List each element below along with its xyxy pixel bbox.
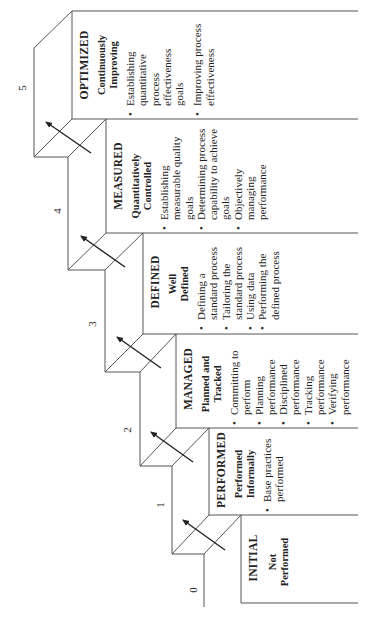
practice-item: Committing to perform — [228, 337, 253, 425]
level-box-measured: MEASURED Quantitatively Controlled Estab… — [112, 122, 269, 230]
practice-item: Establishing quantitative process effect… — [124, 34, 185, 116]
level-subtitle: Not Performed — [267, 534, 291, 590]
level-number-4: 4 — [51, 206, 63, 216]
practice-list: Defining a standard process Tailoring th… — [195, 234, 281, 330]
arrow-icon — [183, 520, 225, 550]
level-subtitle: Continuously Improving — [96, 30, 120, 100]
level-name: MANAGED — [182, 333, 194, 425]
practice-item: Verifying performance — [326, 337, 351, 425]
practice-list: Establishing quantitative process effect… — [124, 14, 216, 116]
level-subtitle: Quantitatively Controlled — [130, 146, 154, 226]
level-number-5: 5 — [16, 83, 28, 93]
level-number-3: 3 — [86, 319, 98, 329]
level-box-optimized: OPTIMIZED Continuously Improving Establi… — [78, 14, 216, 116]
practice-list: Base practices performed — [261, 428, 286, 512]
practice-item: Tracking performance — [302, 337, 327, 425]
level-box-initial: INITIAL Not Performed — [247, 516, 295, 600]
practice-item: Tailoring the standard process — [220, 234, 245, 330]
level-number-2: 2 — [121, 425, 133, 435]
practice-item: Establishing measurable quality goals — [158, 122, 195, 230]
level-subtitle: Planned and Tracked — [200, 349, 224, 419]
practice-item: Improving process effectiveness — [191, 14, 216, 116]
practice-item: Defining a standard process — [195, 234, 220, 330]
practice-item: Planning performance — [253, 337, 278, 425]
practice-item: Using data — [244, 234, 256, 330]
level-box-defined: DEFINED Well Defined Defining a standard… — [149, 234, 281, 330]
practice-item: Performing the defined process — [256, 234, 281, 330]
level-number-1: 1 — [154, 500, 166, 510]
level-name: OPTIMIZED — [78, 14, 90, 116]
level-name: MEASURED — [112, 122, 124, 230]
level-name: PERFORMED — [215, 428, 227, 512]
practice-item: Objectively managing performance — [232, 150, 269, 230]
level-number-0: 0 — [187, 585, 199, 595]
arrow-icon — [151, 432, 193, 462]
level-subtitle: Performed Informally — [233, 446, 257, 502]
practice-list: Establishing measurable quality goals De… — [158, 122, 269, 230]
arrow-icon — [46, 122, 91, 153]
level-name: INITIAL — [247, 516, 259, 600]
practice-item: Base practices performed — [261, 430, 286, 512]
level-box-managed: MANAGED Planned and Tracked Committing t… — [182, 333, 351, 425]
level-name: DEFINED — [149, 234, 161, 330]
level-subtitle: Well Defined — [167, 264, 191, 304]
practice-item: Determining process capability to achiev… — [195, 122, 232, 230]
level-box-performed: PERFORMED Performed Informally Base prac… — [215, 428, 286, 512]
practice-list: Committing to perform Planning performan… — [228, 333, 351, 425]
arrow-icon — [117, 337, 161, 368]
practice-item: Disciplined performance — [277, 337, 302, 425]
